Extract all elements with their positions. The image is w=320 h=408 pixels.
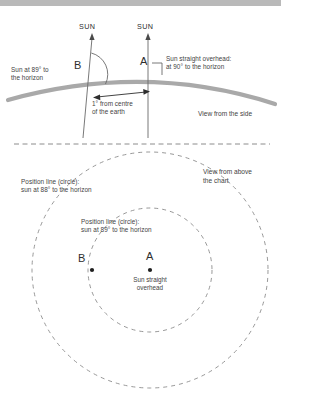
- point-b-dot: [90, 268, 94, 272]
- label-position-line-88: Position line (circle): sun at 88° to th…: [21, 178, 151, 195]
- annotation-one-degree-from-centre: 1° from centre of the earth: [92, 100, 158, 117]
- separation-arrow-line: [97, 92, 146, 97]
- caption-view-from-the-side: View from the side: [198, 110, 252, 119]
- sun-label-left: SUN: [79, 23, 95, 31]
- label-position-line-89: Position line (circle): sun at 89° to th…: [81, 218, 211, 235]
- point-a-sublabel-sun-overhead: Sun straight overhead: [118, 276, 182, 292]
- sun-ray-arrowhead-a: [145, 33, 150, 40]
- point-a-dot: [148, 268, 152, 272]
- annotation-sun-overhead-90-degrees: Sun straight overhead: at 90° to the hor…: [166, 55, 274, 72]
- angle-arc-b: [91, 53, 107, 84]
- point-a-label-above: A: [146, 251, 153, 262]
- sun-label-right: SUN: [137, 23, 153, 31]
- point-b-label-above: B: [78, 253, 85, 264]
- sun-ray-arrowhead-b: [89, 33, 94, 40]
- point-a-label-side: A: [140, 56, 147, 67]
- right-angle-marker-a: [152, 63, 162, 75]
- sun-ray-line-b: [83, 38, 92, 138]
- caption-view-from-above: View from above the chart: [203, 168, 281, 185]
- point-b-label-side: B: [74, 60, 81, 71]
- separation-arrow-head-right: [143, 89, 150, 95]
